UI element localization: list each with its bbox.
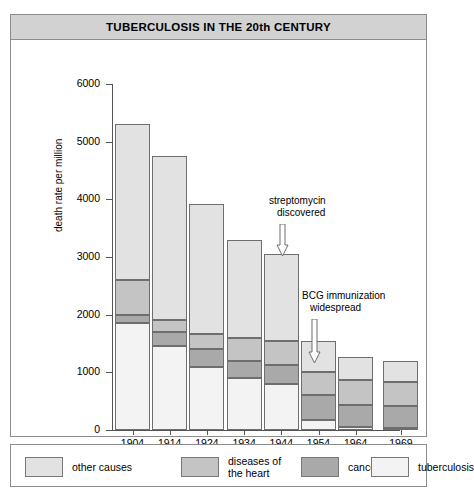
bar-segment-tuberculosis — [338, 427, 373, 430]
y-axis-tick-label: 3000 — [56, 250, 100, 262]
y-axis-tick-mark — [106, 430, 112, 431]
down-arrow-icon — [276, 224, 289, 256]
bar-1914 — [152, 40, 187, 430]
x-axis-tick-mark — [244, 430, 245, 435]
bar-segment-heart — [115, 280, 150, 315]
legend-label-line-1: diseases of — [228, 455, 281, 467]
annotation-line-1: streptomycin — [269, 195, 326, 207]
legend-label-tuberculosis: tuberculosis — [418, 461, 474, 473]
y-axis-tick-label: 5000 — [56, 135, 100, 147]
bar-segment-tuberculosis — [115, 323, 150, 430]
x-axis-tick-mark — [401, 430, 402, 435]
bar-segment-heart — [152, 320, 187, 332]
bar-segment-cancer — [115, 315, 150, 324]
y-axis-tick-label: 4000 — [56, 192, 100, 204]
bar-segment-other-causes — [383, 361, 418, 382]
page-title: TUBERCULOSIS IN THE 20th CENTURY — [106, 21, 331, 33]
legend-item-other-causes[interactable]: other causes — [25, 445, 132, 488]
bar-segment-heart — [338, 380, 373, 404]
chart-card: TUBERCULOSIS IN THE 20th CENTURY death r… — [10, 14, 427, 437]
x-axis-tick-mark — [356, 430, 357, 435]
bar-segment-other-causes — [152, 156, 187, 320]
bar-segment-cancer — [301, 395, 336, 419]
bar-1964 — [338, 40, 373, 430]
legend-label-heart: diseases ofthe heart — [228, 455, 281, 479]
annotation-text-1: streptomycindiscovered — [269, 195, 326, 219]
chart-legend: other causesdiseases ofthe heartcancertu… — [10, 444, 427, 487]
annotation-text-2: BCG immunizationwidespread — [302, 290, 385, 314]
annotation-line-1: BCG immunization — [302, 290, 385, 302]
legend-swatch-tuberculosis — [371, 457, 409, 477]
y-axis-line — [112, 84, 113, 431]
bar-segment-tuberculosis — [264, 384, 299, 430]
plot-area: death rate per million 01000200030004000… — [11, 40, 426, 437]
bar-segment-heart — [301, 372, 336, 395]
y-axis-tick-label: 1000 — [56, 365, 100, 377]
bar-segment-heart — [227, 338, 262, 361]
y-axis-tick-label: 2000 — [56, 308, 100, 320]
bar-segment-other-causes — [264, 254, 299, 341]
x-axis-tick-mark — [170, 430, 171, 435]
y-axis-tick-mark — [106, 372, 112, 373]
legend-label-line-2: the heart — [228, 467, 281, 479]
annotation-line-2: widespread — [302, 302, 385, 314]
bar-segment-heart — [383, 382, 418, 407]
chart-title-bar: TUBERCULOSIS IN THE 20th CENTURY — [11, 15, 426, 40]
bar-segment-tuberculosis — [383, 428, 418, 430]
y-axis-tick-mark — [106, 199, 112, 200]
x-axis-tick-mark — [207, 430, 208, 435]
bar-segment-cancer — [189, 349, 224, 366]
bar-segment-cancer — [227, 361, 262, 378]
bar-segment-other-causes — [115, 124, 150, 280]
bar-segment-tuberculosis — [301, 420, 336, 430]
legend-swatch-cancer — [301, 457, 339, 477]
legend-label-other-causes: other causes — [72, 461, 132, 473]
bar-1904 — [115, 40, 150, 430]
y-axis-tick-mark — [106, 142, 112, 143]
legend-item-cancer[interactable]: cancer — [301, 445, 380, 488]
y-axis-tick-mark — [106, 257, 112, 258]
x-axis-tick-mark — [133, 430, 134, 435]
bar-segment-cancer — [152, 332, 187, 346]
bar-segment-heart — [264, 341, 299, 365]
legend-swatch-heart — [181, 457, 219, 477]
bar-1969 — [383, 40, 418, 430]
bar-segment-tuberculosis — [152, 346, 187, 430]
legend-item-heart[interactable]: diseases ofthe heart — [181, 445, 281, 488]
bar-segment-cancer — [383, 406, 418, 427]
bar-segment-tuberculosis — [189, 367, 224, 430]
bar-segment-heart — [189, 334, 224, 350]
bar-1934 — [227, 40, 262, 430]
down-arrow-icon — [308, 319, 321, 363]
bar-segment-cancer — [338, 405, 373, 427]
bar-segment-other-causes — [189, 204, 224, 334]
legend-swatch-other-causes — [25, 457, 63, 477]
annotation-line-2: discovered — [269, 207, 326, 219]
x-axis-tick-mark — [281, 430, 282, 435]
y-axis-tick-label: 6000 — [56, 77, 100, 89]
x-axis-tick-mark — [319, 430, 320, 435]
y-axis-tick-mark — [106, 315, 112, 316]
legend-item-tuberculosis[interactable]: tuberculosis — [371, 445, 474, 488]
bar-segment-cancer — [264, 365, 299, 384]
y-axis-tick-mark — [106, 84, 112, 85]
bar-1954 — [301, 40, 336, 430]
bar-segment-other-causes — [227, 240, 262, 338]
bar-1924 — [189, 40, 224, 430]
bar-segment-tuberculosis — [227, 378, 262, 430]
bar-segment-other-causes — [338, 357, 373, 380]
x-axis-line — [112, 430, 400, 431]
y-axis-tick-label: 0 — [56, 423, 100, 435]
